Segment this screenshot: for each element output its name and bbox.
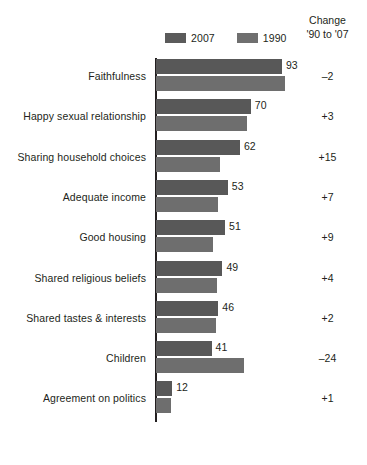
category-label: Sharing household choices [0,150,146,164]
category-label: Children [0,351,146,365]
bar-value-label: 53 [232,179,244,194]
category-label: Shared tastes & interests [0,311,146,325]
bar-1990 [156,76,285,91]
change-value: +3 [288,109,367,123]
bar-2007 [156,99,251,114]
change-value: –2 [288,69,367,83]
chart-row: Happy sexual relationship70+3 [0,98,367,138]
category-label: Faithfulness [0,69,146,83]
bar-2007 [156,381,172,396]
change-column-header: Change '90 to '07 [288,14,367,41]
chart-row: Shared tastes & interests46+2 [0,300,367,340]
chart-legend: 2007 1990 [165,32,287,44]
bar-1990 [156,358,244,373]
bar-value-label: 70 [255,98,267,113]
change-value: +15 [288,150,367,164]
category-label: Shared religious beliefs [0,271,146,285]
bar-value-label: 46 [222,300,234,315]
change-value: +2 [288,311,367,325]
bar-2007 [156,140,240,155]
category-label: Happy sexual relationship [0,109,146,123]
category-label: Good housing [0,230,146,244]
bar-value-label: 12 [176,380,188,395]
chart-row: Sharing household choices62+15 [0,139,367,179]
bar-value-label: 41 [216,340,228,355]
bar-2007 [156,341,212,356]
bar-2007 [156,59,282,74]
change-header-line2: '90 to '07 [288,28,367,42]
legend-swatch-1990-icon [237,33,258,43]
bar-value-label: 49 [226,260,238,275]
bar-1990 [156,116,247,131]
legend-item-2007: 2007 [165,32,215,44]
legend-swatch-2007-icon [165,33,186,43]
legend-item-1990: 1990 [237,32,287,44]
bar-1990 [156,197,218,212]
change-value: +1 [288,391,367,405]
change-value: +7 [288,190,367,204]
change-value: –24 [288,351,367,365]
chart-row: Shared religious beliefs49+4 [0,260,367,300]
bar-value-label: 62 [244,139,256,154]
chart-row: Adequate income53+7 [0,179,367,219]
bar-2007 [156,180,228,195]
category-label: Adequate income [0,190,146,204]
bar-1990 [156,278,217,293]
bar-1990 [156,237,213,252]
bar-chart: 2007 1990 Change '90 to '07 Faithfulness… [0,0,367,465]
legend-label-2007: 2007 [191,32,215,44]
chart-row: Children41–24 [0,340,367,380]
bar-value-label: 51 [229,219,241,234]
change-value: +4 [288,271,367,285]
bar-1990 [156,157,220,172]
chart-row: Faithfulness93–2 [0,58,367,98]
category-label: Agreement on politics [0,391,146,405]
chart-row: Agreement on politics12+1 [0,380,367,420]
bar-2007 [156,261,222,276]
change-value: +9 [288,230,367,244]
bar-2007 [156,301,218,316]
bar-1990 [156,318,216,333]
legend-label-1990: 1990 [263,32,287,44]
bar-2007 [156,220,225,235]
plot-area: Faithfulness93–2Happy sexual relationshi… [0,58,367,428]
bar-1990 [156,398,171,413]
change-header-line1: Change [288,14,367,28]
chart-row: Good housing51+9 [0,219,367,259]
